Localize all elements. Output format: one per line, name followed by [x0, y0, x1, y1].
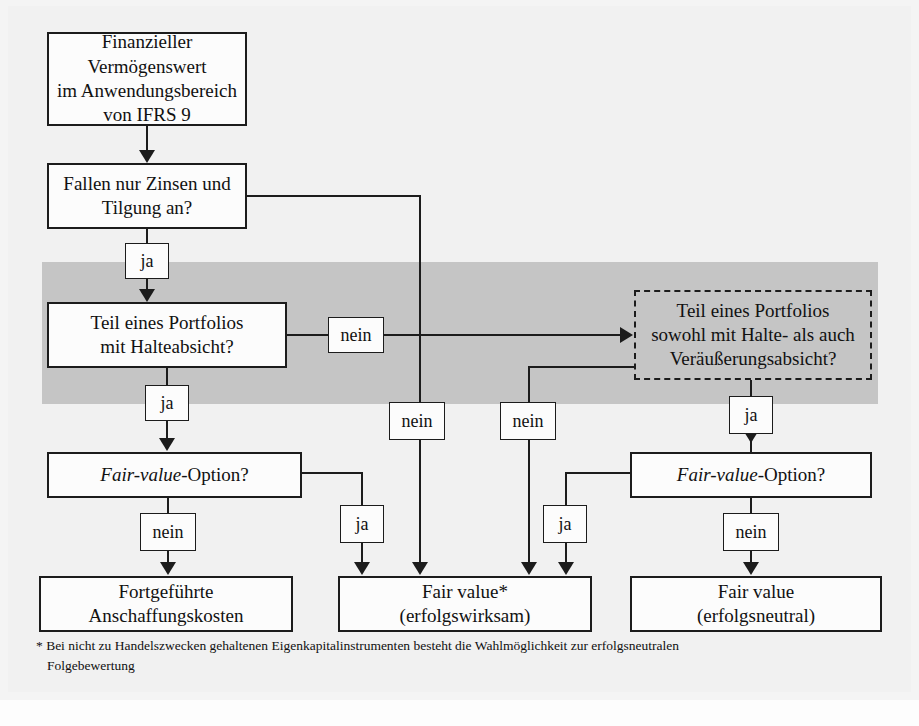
connector-holdsell-nein-v1 — [528, 366, 530, 404]
node-amortised-line1: Fortgeführte — [119, 581, 214, 602]
edge-label-holdsell-ja-text: ja — [745, 405, 758, 426]
connector-fvoright-left-v — [565, 472, 567, 506]
node-spi-test: Fallen nur Zinsen und Tilgung an? — [47, 163, 247, 229]
node-fair-value-option-right: Fair-value-Option? — [630, 452, 872, 498]
footnote-line2: Folgebewertung — [36, 656, 836, 676]
connector-fvoleft-right-v — [361, 472, 363, 506]
footnote-line1: * Bei nicht zu Handelszwecken gehaltenen… — [36, 638, 679, 653]
node-start: Finanzieller Vermögenswert im Anwendungs… — [47, 32, 247, 126]
node-spi-line2: Tilgung an? — [102, 197, 193, 218]
node-holdsell-line1: Teil eines Portfolios — [677, 300, 830, 321]
node-fair-value-option-left: Fair-value-Option? — [47, 452, 302, 498]
connector-spi-nein-to-fvpl — [419, 440, 421, 564]
edge-label-fvo-right-ja-text: ja — [559, 514, 572, 535]
node-fvpl-line2: (erfolgswirksam) — [400, 605, 531, 626]
edge-label-holdsell-nein: nein — [500, 402, 556, 440]
node-hold-portfolio: Teil eines Portfolios mit Halteabsicht? — [47, 302, 287, 368]
node-start-line2: im Anwendungsbereich — [57, 80, 237, 101]
edge-label-fvo-right-nein-text: nein — [736, 522, 767, 543]
node-hold-line1: Teil eines Portfolios — [91, 312, 244, 333]
node-amortised-line2: Anschaffungskosten — [89, 605, 244, 626]
arrowhead-holdsell-nein-to-fvpl — [521, 562, 537, 575]
connector-fvoright-left-h — [565, 472, 631, 474]
edge-label-fvo-right-nein: nein — [723, 513, 779, 551]
node-start-line3: von IFRS 9 — [103, 104, 191, 125]
edge-label-holdsell-ja: ja — [729, 396, 773, 434]
connector-fvoleft-right-h — [302, 472, 362, 474]
connector-fvoleft-to-nein — [167, 498, 169, 514]
node-fvo-left-roman: -Option? — [181, 464, 249, 485]
arrowhead-ja-to-fvoleft — [159, 438, 175, 451]
node-amortised-cost: Fortgeführte Anschaffungskosten — [39, 576, 293, 632]
footnote: * Bei nicht zu Handelszwecken gehaltenen… — [36, 636, 836, 677]
node-fair-value-pl: Fair value* (erfolgswirksam) — [338, 576, 592, 632]
edge-label-fvo-left-ja: ja — [340, 505, 384, 543]
node-hold-line2: mit Halteabsicht? — [100, 336, 233, 357]
edge-label-fvo-right-ja: ja — [543, 505, 587, 543]
edge-label-spi-ja-text: ja — [141, 251, 154, 272]
connector-spi-to-ja — [146, 229, 148, 243]
connector-holdsell-nein-h — [528, 366, 636, 368]
node-holdsell-line3: Veräußerungsabsicht? — [670, 348, 837, 369]
node-spi-line1: Fallen nur Zinsen und — [63, 173, 230, 194]
node-fvoci-line1: Fair value — [718, 581, 795, 602]
arrowhead-nein-to-amortised — [160, 562, 176, 575]
edge-label-fvo-left-ja-text: ja — [356, 514, 369, 535]
arrowhead-fvoright-ja-to-fvpl — [558, 562, 574, 575]
arrowhead-fvoleft-ja-to-fvpl — [354, 562, 370, 575]
connector-holdsell-nein-v2 — [528, 440, 530, 564]
connector-spi-down — [419, 195, 421, 402]
connector-nein-to-holdsell — [384, 334, 622, 336]
node-fvpl-line1: Fair value* — [422, 581, 508, 602]
connector-start-to-spi — [146, 126, 148, 152]
node-holdsell-line2: sowohl mit Halte- als auch — [651, 324, 855, 345]
edge-label-hold-ja-text: ja — [161, 393, 174, 414]
node-start-line1: Finanzieller Vermögenswert — [87, 31, 206, 76]
edge-label-spi-nein-text: nein — [402, 411, 433, 432]
arrowhead-nein-to-fvoci — [743, 562, 759, 575]
edge-label-fvo-left-nein: nein — [140, 513, 196, 551]
edge-label-spi-ja: ja — [125, 243, 169, 279]
edge-label-hold-nein-text: nein — [341, 325, 372, 346]
node-fair-value-oci: Fair value (erfolgsneutral) — [630, 576, 882, 632]
edge-label-hold-nein: nein — [328, 317, 384, 353]
arrowhead-nein-to-holdsell — [620, 327, 633, 343]
diagram-canvas: Finanzieller Vermögenswert im Anwendungs… — [0, 0, 919, 726]
connector-hold-to-ja — [166, 368, 168, 386]
node-fvo-right-italic: Fair-value — [677, 464, 758, 485]
connector-fvoright-to-nein — [750, 498, 752, 514]
arrowhead-spi-nein-to-fvpl — [412, 562, 428, 575]
node-fvoci-line2: (erfolgsneutral) — [697, 605, 815, 626]
node-fvo-left-italic: Fair-value — [100, 464, 181, 485]
edge-label-fvo-left-nein-text: nein — [153, 522, 184, 543]
edge-label-holdsell-nein-text: nein — [513, 411, 544, 432]
node-hold-and-sell-portfolio: Teil eines Portfolios sowohl mit Halte- … — [634, 290, 872, 380]
node-fvo-right-roman: -Option? — [758, 464, 826, 485]
connector-spi-right — [247, 195, 421, 197]
arrowhead-ja-to-hold — [139, 289, 155, 302]
edge-label-hold-ja: ja — [145, 385, 189, 421]
arrowhead-start-to-spi — [139, 150, 155, 163]
connector-hold-to-nein — [287, 334, 329, 336]
edge-label-spi-nein: nein — [389, 402, 445, 440]
